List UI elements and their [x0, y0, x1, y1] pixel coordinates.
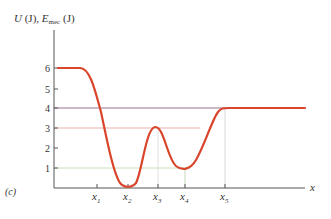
potential-energy-chart: U (J), Emec (J) 6 5 4 3 2 1 x1 x2 x3 — [0, 0, 331, 219]
svg-text:x4: x4 — [179, 190, 189, 205]
potential-energy-curve — [58, 68, 305, 187]
svg-text:5: 5 — [45, 84, 50, 95]
svg-text:x1: x1 — [91, 190, 100, 205]
x-axis-label: x — [309, 181, 315, 193]
svg-text:x2: x2 — [122, 190, 132, 205]
svg-text:3: 3 — [45, 123, 50, 134]
svg-text:x5: x5 — [219, 190, 229, 205]
y-ticks — [54, 68, 58, 168]
svg-text:6: 6 — [45, 63, 50, 74]
x-tick-labels: x1 x2 x3 x4 x5 — [91, 190, 229, 205]
svg-text:4: 4 — [45, 103, 50, 114]
svg-text:x3: x3 — [152, 190, 162, 205]
svg-text:2: 2 — [45, 143, 50, 154]
x-ticks — [97, 184, 225, 188]
svg-text:1: 1 — [45, 163, 50, 174]
panel-label: (c) — [5, 186, 17, 198]
y-tick-labels: 6 5 4 3 2 1 — [45, 63, 50, 174]
y-axis-label: U (J), Emec (J) — [14, 12, 75, 26]
